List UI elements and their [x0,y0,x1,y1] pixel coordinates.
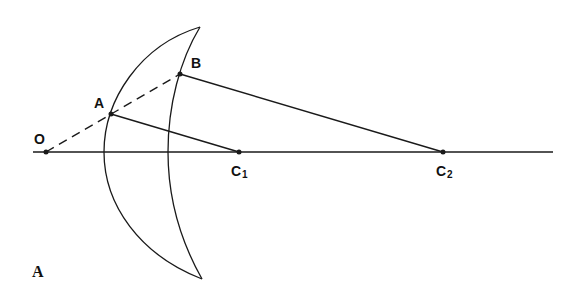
point-A [109,112,114,117]
lens-diagram: O A B C 1 C 2 A [0,0,577,303]
label-C1-subscript: 1 [242,169,248,180]
radius-A-C1 [111,114,239,152]
label-B: B [191,55,201,71]
label-A: A [94,95,104,111]
point-B [178,72,183,77]
radius-B-C2 [180,74,443,152]
point-O [44,150,49,155]
label-C2: C [436,163,446,179]
label-O: O [34,131,45,147]
figure-label: A [32,263,44,280]
label-C2-subscript: 2 [447,169,453,180]
lens-outer-surface [104,27,202,279]
label-C1: C [231,163,241,179]
point-C1 [237,150,242,155]
point-C2 [441,150,446,155]
